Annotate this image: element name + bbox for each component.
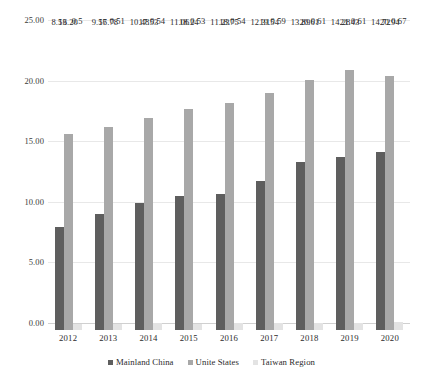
bar-group-2015: 11.0618.240.53 (174, 27, 204, 330)
y-tick-label: 10.00 (0, 198, 44, 207)
chart-legend: Mainland ChinaUnite StatesTaiwan Region (0, 358, 423, 367)
legend-swatch-icon (108, 360, 113, 365)
bar-rect: 20.61 (305, 80, 314, 330)
bar-unite-states-2016[interactable]: 18.75 (225, 27, 234, 330)
bar-value-label: 0.59 (271, 17, 286, 26)
bar-rect: 13.89 (296, 162, 305, 330)
bar-unite-states-2018[interactable]: 20.61 (305, 27, 314, 330)
x-axis: 201220132014201520162017201820192020 (48, 334, 410, 350)
legend-item-unite-states[interactable]: Unite States (188, 358, 239, 367)
bar-unite-states-2015[interactable]: 18.24 (184, 27, 193, 330)
bar-mainland-china-2020[interactable]: 14.72 (376, 27, 385, 330)
bar-value-label: 0.61 (351, 17, 366, 26)
bar-rect: 8.53 (55, 227, 64, 330)
x-tick-label: 2015 (169, 334, 209, 343)
legend-swatch-icon (253, 360, 258, 365)
bar-rect: 18.24 (184, 109, 193, 330)
bar-value-label: 0.61 (311, 17, 326, 26)
legend-swatch-icon (188, 360, 193, 365)
bar-value-label: 0.51 (110, 17, 125, 26)
bar-group-2012: 8.5316.200.5 (53, 27, 83, 330)
bar-rect: 9.57 (95, 214, 104, 330)
bar-value-label: 0.67 (391, 17, 406, 26)
bar-taiwan-region-2018[interactable]: 0.61 (314, 27, 323, 330)
x-tick-label: 2018 (289, 334, 329, 343)
bar-group-2014: 10.4817.530.54 (134, 27, 164, 330)
bar-unite-states-2014[interactable]: 17.53 (144, 27, 153, 330)
bar-rect: 14.72 (376, 152, 385, 330)
legend-item-mainland-china[interactable]: Mainland China (108, 358, 174, 367)
bar-rect: 21.43 (345, 70, 354, 330)
bar-rect: 0.53 (193, 324, 202, 330)
bar-mainland-china-2019[interactable]: 14.28 (336, 27, 345, 330)
bar-rect: 0.61 (354, 323, 363, 330)
y-tick-label: 15.00 (0, 137, 44, 146)
bar-unite-states-2019[interactable]: 21.43 (345, 27, 354, 330)
bar-taiwan-region-2017[interactable]: 0.59 (274, 27, 283, 330)
plot-area: 8.5316.200.59.5716.780.5110.4817.530.541… (48, 20, 410, 337)
legend-item-taiwan-region[interactable]: Taiwan Region (253, 358, 315, 367)
bar-group-2016: 11.2318.750.54 (214, 27, 244, 330)
bar-rect: 14.28 (336, 157, 345, 330)
bar-value-label: 0.5 (72, 17, 83, 26)
bar-taiwan-region-2013[interactable]: 0.51 (113, 27, 122, 330)
x-tick-label: 2016 (209, 334, 249, 343)
legend-label: Unite States (196, 358, 239, 367)
x-tick-label: 2020 (370, 334, 410, 343)
bar-group-2020: 14.7220.940.67 (375, 27, 405, 330)
bar-unite-states-2013[interactable]: 16.78 (104, 27, 113, 330)
bar-chart: 0.005.0010.0015.0020.0025.00 8.5316.200.… (0, 0, 423, 386)
bar-rect: 12.31 (256, 181, 265, 330)
x-tick-label: 2012 (48, 334, 88, 343)
bar-unite-states-2017[interactable]: 19.54 (265, 27, 274, 330)
x-tick-label: 2019 (330, 334, 370, 343)
bar-mainland-china-2012[interactable]: 8.53 (55, 27, 64, 330)
bar-rect: 19.54 (265, 93, 274, 330)
x-tick-label: 2017 (249, 334, 289, 343)
bar-rect: 17.53 (144, 118, 153, 330)
bar-rect: 18.75 (225, 103, 234, 330)
bar-rect: 0.54 (153, 323, 162, 330)
bar-group-2018: 13.8920.610.61 (294, 27, 324, 330)
bar-value-label: 0.54 (150, 17, 165, 26)
y-tick-label: 20.00 (0, 77, 44, 86)
bar-value-label: 0.53 (190, 17, 205, 26)
bar-rect: 0.51 (113, 324, 122, 330)
bar-rect: 16.78 (104, 127, 113, 330)
bar-rect: 0.61 (314, 323, 323, 330)
bar-taiwan-region-2016[interactable]: 0.54 (234, 27, 243, 330)
bar-taiwan-region-2014[interactable]: 0.54 (153, 27, 162, 330)
y-tick-label: 25.00 (0, 16, 44, 25)
bar-rect: 16.20 (64, 134, 73, 330)
legend-label: Taiwan Region (261, 358, 315, 367)
bar-rect: 11.06 (175, 196, 184, 330)
y-tick-label: 0.00 (0, 319, 44, 328)
bar-rect: 0.5 (73, 324, 82, 330)
bar-rect: 11.23 (216, 194, 225, 330)
x-tick-label: 2013 (88, 334, 128, 343)
bar-value-label: 0.54 (230, 17, 245, 26)
bar-rect: 0.54 (234, 323, 243, 330)
bar-rect: 0.67 (394, 322, 403, 330)
bar-rect: 10.48 (135, 203, 144, 330)
bar-group-2013: 9.5716.780.51 (93, 27, 123, 330)
bar-mainland-china-2013[interactable]: 9.57 (95, 27, 104, 330)
bar-mainland-china-2018[interactable]: 13.89 (296, 27, 305, 330)
bar-mainland-china-2017[interactable]: 12.31 (256, 27, 265, 330)
bar-mainland-china-2014[interactable]: 10.48 (135, 27, 144, 330)
bar-taiwan-region-2019[interactable]: 0.61 (354, 27, 363, 330)
x-tick-label: 2014 (128, 334, 168, 343)
y-tick-label: 5.00 (0, 258, 44, 267)
bar-taiwan-region-2015[interactable]: 0.53 (193, 27, 202, 330)
bar-group-2017: 12.3119.540.59 (254, 27, 284, 330)
y-axis: 0.005.0010.0015.0020.0025.00 (0, 20, 44, 337)
bar-rect: 20.94 (385, 76, 394, 330)
legend-label: Mainland China (116, 358, 174, 367)
bar-mainland-china-2015[interactable]: 11.06 (175, 27, 184, 330)
bar-unite-states-2020[interactable]: 20.94 (385, 27, 394, 330)
bar-mainland-china-2016[interactable]: 11.23 (216, 27, 225, 330)
bar-group-2019: 14.2821.430.61 (335, 27, 365, 330)
bar-taiwan-region-2012[interactable]: 0.5 (73, 27, 82, 330)
bar-unite-states-2012[interactable]: 16.20 (64, 27, 73, 330)
bar-taiwan-region-2020[interactable]: 0.67 (394, 27, 403, 330)
